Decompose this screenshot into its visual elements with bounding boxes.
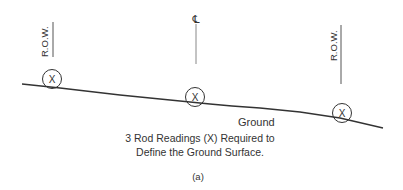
- rod-reading-center: X: [186, 88, 205, 107]
- ground-label: Ground: [238, 116, 275, 128]
- rod-reading-symbol: X: [192, 92, 199, 103]
- row-right-marker: R.O.W.: [328, 25, 341, 84]
- rod-reading-symbol: X: [339, 108, 346, 119]
- row-right-label: R.O.W.: [328, 30, 339, 61]
- figure-label: (a): [192, 171, 204, 182]
- caption-line-2: Define the Ground Surface.: [136, 146, 264, 158]
- rod-reading-symbol: X: [49, 74, 56, 85]
- centerline-symbol: ℄: [191, 13, 199, 25]
- caption-line-1: 3 Rod Readings (X) Required to: [125, 132, 275, 144]
- ground-surface-diagram: R.O.W. ℄ R.O.W. X X X Ground: [0, 0, 403, 190]
- row-left-label: R.O.W.: [39, 26, 50, 57]
- centerline-marker: ℄: [191, 13, 199, 64]
- rod-reading-right: X: [333, 104, 352, 123]
- row-left-marker: R.O.W.: [39, 22, 53, 57]
- rod-reading-left: X: [43, 70, 62, 89]
